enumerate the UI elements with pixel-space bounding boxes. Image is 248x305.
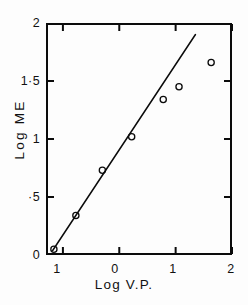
- tick-marks: [47, 24, 232, 254]
- data-points: [51, 59, 214, 252]
- data-point-3: [129, 134, 135, 140]
- data-point-5: [176, 84, 182, 90]
- scatter-plot-figure: 2 1·5 1 ·5 0 1 0 1 2 Log V.P. Log ME: [0, 0, 248, 305]
- data-point-2: [99, 167, 105, 173]
- data-point-6: [208, 59, 214, 65]
- data-point-4: [160, 96, 166, 102]
- plot-overlay: [0, 0, 248, 305]
